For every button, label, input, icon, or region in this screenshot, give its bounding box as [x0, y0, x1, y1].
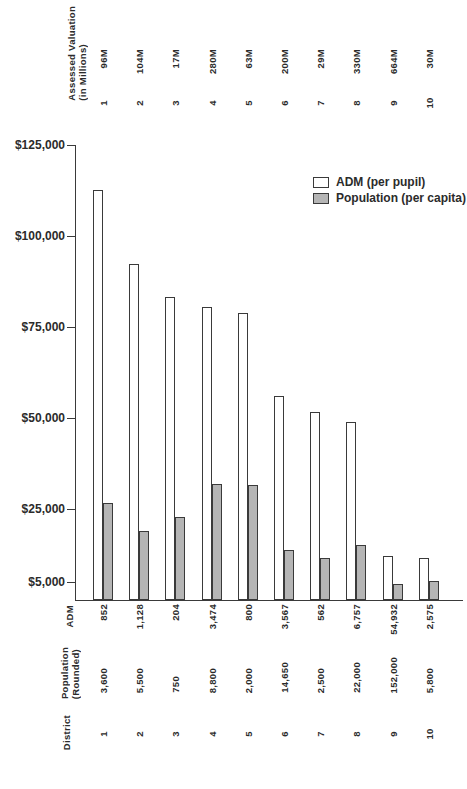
assessed-valuation-label: 63M — [243, 49, 254, 68]
population-bar-district-5 — [248, 485, 258, 600]
district-number: 9 — [388, 731, 399, 737]
district-number: 5 — [243, 731, 254, 737]
district-number: 3 — [170, 731, 181, 737]
population-bar-district-7 — [320, 558, 330, 600]
y-tick-mark — [67, 509, 75, 510]
y-tick-mark — [67, 236, 75, 237]
district-number: 8 — [351, 731, 362, 737]
population-bar-district-3 — [175, 517, 185, 600]
adm-value: 852 — [98, 604, 109, 621]
district-number: 1 — [98, 731, 109, 737]
adm-swatch-icon — [313, 177, 329, 188]
assessed-valuation-label: 29M — [315, 49, 326, 68]
adm-bar-district-9 — [383, 556, 393, 600]
assessed-valuation-label: 664M — [388, 49, 399, 74]
chart-figure: Assessed Valuation (in Millions) 96M1104… — [0, 0, 467, 789]
adm-bar-district-7 — [310, 412, 320, 600]
population-value: 152,000 — [388, 657, 399, 693]
adm-value: 3,567 — [279, 604, 290, 629]
adm-value: 562 — [315, 604, 326, 621]
district-number: 2 — [134, 731, 145, 737]
assessed-valuation-label: 330M — [351, 49, 362, 74]
assessed-valuation-label: 17M — [170, 49, 181, 68]
adm-value: 2,575 — [424, 604, 435, 629]
top-district-number: 2 — [134, 100, 145, 106]
y-tick-label: $25,000 — [3, 501, 65, 517]
adm-bar-district-5 — [238, 313, 248, 600]
population-bar-district-9 — [393, 584, 403, 600]
adm-bar-district-6 — [274, 396, 284, 600]
legend-item-adm: ADM (per pupil) — [313, 175, 425, 189]
adm-bar-district-4 — [202, 307, 212, 600]
top-district-number: 6 — [279, 100, 290, 106]
district-number: 7 — [315, 731, 326, 737]
top-district-number: 5 — [243, 100, 254, 106]
y-tick-mark — [67, 327, 75, 328]
adm-bar-district-10 — [419, 558, 429, 600]
population-bar-district-10 — [429, 581, 439, 600]
population-value: 2,500 — [315, 668, 326, 693]
top-district-number: 10 — [424, 97, 435, 108]
population-value: 2,000 — [243, 668, 254, 693]
district-number: 6 — [279, 731, 290, 737]
assessed-valuation-header-line1: Assessed Valuation — [66, 6, 77, 101]
adm-value: 6,757 — [351, 604, 362, 629]
assessed-valuation-label: 30M — [424, 49, 435, 68]
top-district-number: 1 — [98, 100, 109, 106]
population-bar-district-8 — [356, 545, 366, 600]
adm-value: 54,932 — [388, 604, 399, 635]
adm-value: 204 — [170, 604, 181, 621]
assessed-valuation-header-line2: (in Millions) — [77, 44, 88, 101]
y-tick-label: $5,000 — [3, 574, 65, 590]
population-bar-district-4 — [212, 484, 222, 600]
adm-value: 800 — [243, 604, 254, 621]
y-axis-line — [75, 145, 76, 601]
top-district-number: 3 — [170, 100, 181, 106]
population-row-header-line1: Population — [59, 647, 70, 699]
assessed-valuation-label: 104M — [134, 49, 145, 74]
population-value: 22,000 — [351, 662, 362, 693]
population-bar-district-1 — [103, 503, 113, 600]
population-value: 3,600 — [98, 668, 109, 693]
population-value: 8,800 — [207, 668, 218, 693]
population-bar-district-2 — [139, 531, 149, 600]
adm-row-header: ADM — [64, 605, 75, 628]
top-district-number: 4 — [207, 100, 218, 106]
adm-bar-district-3 — [165, 297, 175, 600]
adm-value: 3,474 — [207, 604, 218, 629]
population-value: 5,500 — [134, 668, 145, 693]
y-tick-label: $100,000 — [3, 228, 65, 244]
adm-bar-district-1 — [93, 190, 103, 600]
y-tick-mark — [67, 582, 75, 583]
district-number: 4 — [207, 731, 218, 737]
legend-label-population: Population (per capita) — [336, 191, 466, 205]
population-swatch-icon — [313, 193, 329, 204]
district-number: 10 — [424, 728, 435, 739]
population-value: 750 — [170, 676, 181, 693]
top-district-number: 8 — [351, 100, 362, 106]
population-value: 14,650 — [279, 662, 290, 693]
legend-item-population: Population (per capita) — [313, 191, 466, 205]
adm-bar-district-8 — [346, 422, 356, 600]
y-tick-label: $125,000 — [3, 137, 65, 153]
y-tick-mark — [67, 418, 75, 419]
assessed-valuation-label: 280M — [207, 49, 218, 74]
adm-bar-district-2 — [129, 264, 139, 600]
y-tick-label: $50,000 — [3, 410, 65, 426]
population-row-header-line2: (Rounded) — [70, 649, 81, 699]
top-district-number: 7 — [315, 100, 326, 106]
district-row-header: District — [61, 715, 72, 750]
x-axis-baseline — [75, 600, 463, 601]
assessed-valuation-label: 200M — [279, 49, 290, 74]
population-bar-district-6 — [284, 550, 294, 600]
adm-value: 1,128 — [134, 604, 145, 629]
y-tick-label: $75,000 — [3, 319, 65, 335]
population-value: 5,800 — [424, 668, 435, 693]
y-tick-mark — [67, 145, 75, 146]
assessed-valuation-label: 96M — [98, 49, 109, 68]
top-district-number: 9 — [388, 100, 399, 106]
legend-label-adm: ADM (per pupil) — [336, 175, 425, 189]
